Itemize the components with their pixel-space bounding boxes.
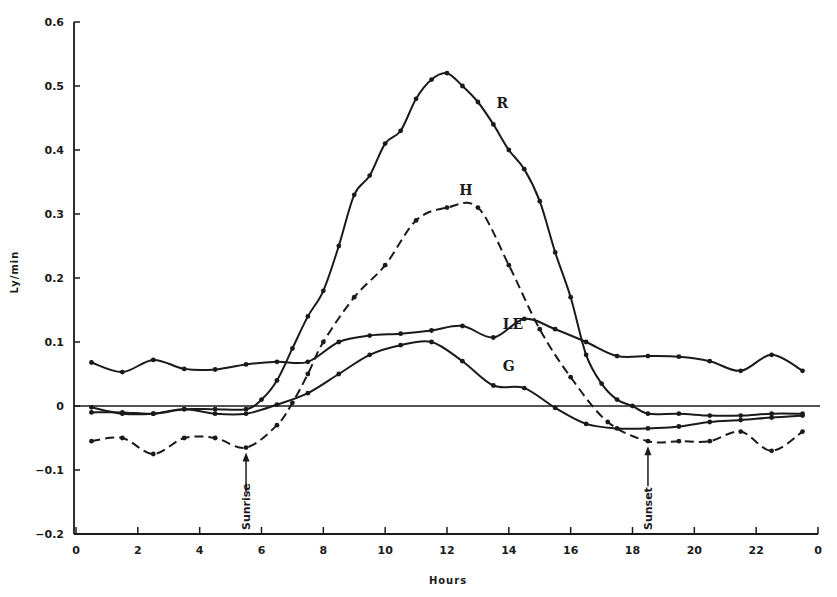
data-point xyxy=(352,192,357,197)
annotation-label: Sunrise xyxy=(240,483,253,530)
data-point xyxy=(244,411,249,416)
x-tick-label: 12 xyxy=(439,544,454,557)
data-point xyxy=(491,122,496,127)
data-point xyxy=(445,205,450,210)
data-point xyxy=(568,375,573,380)
data-point xyxy=(244,407,249,412)
data-point xyxy=(275,359,280,364)
x-tick-label: 10 xyxy=(378,544,394,557)
data-point xyxy=(398,128,403,133)
data-point xyxy=(151,358,156,363)
data-point xyxy=(738,418,743,423)
data-point xyxy=(476,100,481,105)
arrow-head-icon xyxy=(243,453,250,462)
data-point xyxy=(646,426,651,431)
data-point xyxy=(676,354,681,359)
x-tick-label: 16 xyxy=(563,544,579,557)
series-line xyxy=(91,319,802,372)
series-r: R xyxy=(89,71,805,418)
series-g: G xyxy=(89,340,805,431)
data-point xyxy=(800,368,805,373)
data-point xyxy=(460,84,465,89)
data-point xyxy=(584,352,589,357)
data-point xyxy=(213,367,218,372)
data-point xyxy=(630,404,635,409)
annotation-sunrise: Sunrise xyxy=(240,453,253,530)
data-point xyxy=(120,436,125,441)
series-le: LE xyxy=(89,316,805,374)
data-point xyxy=(676,439,681,444)
data-point xyxy=(646,354,651,359)
data-point xyxy=(506,263,511,268)
data-point xyxy=(769,352,774,357)
data-point xyxy=(182,366,187,371)
y-axis-title: Ly/min xyxy=(9,251,20,294)
data-point xyxy=(120,411,125,416)
data-point xyxy=(553,250,558,255)
data-point xyxy=(398,331,403,336)
data-point xyxy=(352,295,357,300)
data-point xyxy=(321,340,326,345)
data-point xyxy=(305,314,310,319)
data-point xyxy=(491,383,496,388)
data-point xyxy=(707,420,712,425)
data-point xyxy=(506,148,511,153)
arrow-head-icon xyxy=(644,446,651,455)
data-point xyxy=(213,411,218,416)
data-point xyxy=(182,407,187,412)
x-tick-label: 8 xyxy=(320,544,328,557)
data-point xyxy=(275,378,280,383)
data-point xyxy=(599,381,604,386)
series-label: H xyxy=(459,182,472,198)
x-axis-title: Hours xyxy=(429,575,467,586)
data-point xyxy=(275,423,280,428)
data-point xyxy=(414,218,419,223)
data-point xyxy=(800,413,805,418)
data-point xyxy=(615,426,620,431)
data-point xyxy=(336,372,341,377)
y-tick-label: 0.3 xyxy=(45,208,65,221)
data-point xyxy=(398,343,403,348)
data-point xyxy=(213,407,218,412)
data-point xyxy=(213,436,218,441)
y-tick-label: 0.4 xyxy=(45,144,65,157)
data-point xyxy=(738,368,743,373)
data-point xyxy=(522,386,527,391)
annotations: SunriseSunset xyxy=(240,446,655,530)
data-point xyxy=(89,410,94,415)
data-point xyxy=(383,263,388,268)
data-point xyxy=(615,354,620,359)
y-tick-label: −0.2 xyxy=(35,528,64,541)
data-point xyxy=(367,352,372,357)
series-line xyxy=(91,73,802,416)
data-point xyxy=(537,327,542,332)
data-point xyxy=(553,406,558,411)
data-point xyxy=(676,411,681,416)
data-point xyxy=(584,422,589,427)
data-point xyxy=(120,370,125,375)
data-point xyxy=(244,362,249,367)
data-point xyxy=(244,445,249,450)
annotation-label: Sunset xyxy=(642,487,655,530)
data-point xyxy=(522,167,527,172)
data-point xyxy=(707,359,712,364)
data-point xyxy=(367,173,372,178)
data-point xyxy=(800,429,805,434)
y-tick-label: 0 xyxy=(56,400,64,413)
series-label: G xyxy=(503,358,515,374)
data-point xyxy=(769,448,774,453)
data-point xyxy=(568,295,573,300)
x-tick-label: 20 xyxy=(687,544,703,557)
data-point xyxy=(151,411,156,416)
y-tick-label: 0.1 xyxy=(45,336,65,349)
data-point xyxy=(275,402,280,407)
y-tick-label: 0.6 xyxy=(45,16,65,29)
data-point xyxy=(367,333,372,338)
data-point xyxy=(305,359,310,364)
data-point xyxy=(738,413,743,418)
data-point xyxy=(336,340,341,345)
data-point xyxy=(707,413,712,418)
x-tick-label: 14 xyxy=(501,544,517,557)
series-line xyxy=(91,203,802,454)
series-label: LE xyxy=(503,316,524,332)
